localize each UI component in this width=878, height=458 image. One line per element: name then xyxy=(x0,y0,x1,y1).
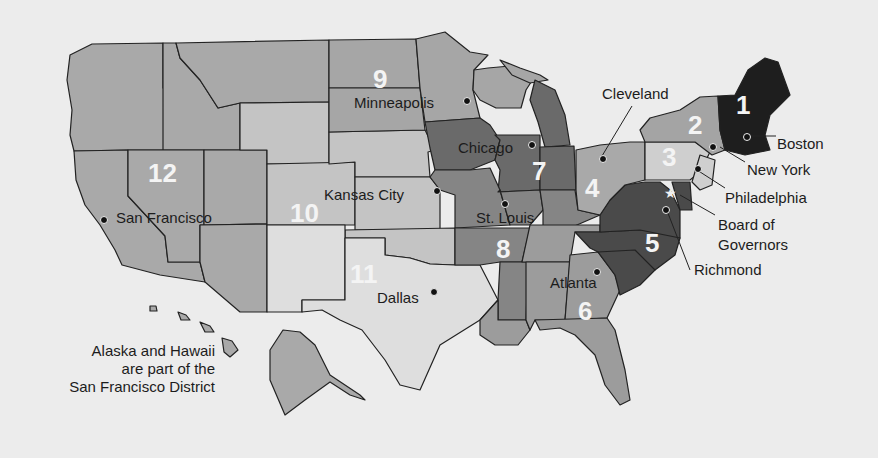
district-number-1: 1 xyxy=(736,92,750,118)
district-number-6: 6 xyxy=(578,298,592,324)
city-label-new-york: New York xyxy=(747,162,810,177)
board-of-governors-label: Board of Governors xyxy=(718,215,788,255)
district-number-3: 3 xyxy=(662,144,676,170)
board-label-line1: Board of xyxy=(718,215,788,235)
city-dot-new-york xyxy=(709,143,717,151)
note-line2: are part of the xyxy=(30,360,215,378)
alaska-hawaii-note: Alaska and Hawaii are part of the San Fr… xyxy=(30,342,215,396)
city-label-philadelphia: Philadelphia xyxy=(725,190,807,205)
district-number-4: 4 xyxy=(585,175,599,201)
district-number-2: 2 xyxy=(688,112,702,138)
district-number-11: 11 xyxy=(350,261,378,287)
district-number-7: 7 xyxy=(532,158,546,184)
city-label-atlanta: Atlanta xyxy=(550,275,597,290)
city-label-kansas-city: Kansas City xyxy=(324,187,404,202)
city-dot-minneapolis xyxy=(463,97,471,105)
note-line1: Alaska and Hawaii xyxy=(30,342,215,360)
district-number-10: 10 xyxy=(290,200,319,226)
city-label-minneapolis: Minneapolis xyxy=(354,95,434,110)
city-label-st-louis: St. Louis xyxy=(476,210,534,225)
city-dot-chicago xyxy=(528,141,536,149)
district-9-region[interactable] xyxy=(329,32,548,132)
city-dot-dallas xyxy=(430,288,438,296)
city-label-cleveland: Cleveland xyxy=(602,86,669,101)
city-label-boston: Boston xyxy=(777,136,824,151)
city-dot-kansas-city xyxy=(433,187,441,195)
board-label-line2: Governors xyxy=(718,235,788,255)
note-line3: San Francisco District xyxy=(30,378,215,396)
district-number-8: 8 xyxy=(496,236,510,262)
city-label-chicago: Chicago xyxy=(458,140,513,155)
city-label-richmond: Richmond xyxy=(694,262,762,277)
city-dot-richmond xyxy=(662,206,670,214)
city-dot-boston xyxy=(743,133,751,141)
city-dot-cleveland xyxy=(599,155,607,163)
city-dot-philadelphia xyxy=(694,165,702,173)
city-dot-st-louis xyxy=(501,200,509,208)
city-label-san-francisco: San Francisco xyxy=(116,210,212,225)
district-number-9: 9 xyxy=(373,66,387,92)
star-icon: ★ xyxy=(664,185,677,201)
city-label-dallas: Dallas xyxy=(377,290,419,305)
district-number-5: 5 xyxy=(645,230,659,256)
district-number-12: 12 xyxy=(148,160,177,186)
city-dot-san-francisco xyxy=(100,216,108,224)
